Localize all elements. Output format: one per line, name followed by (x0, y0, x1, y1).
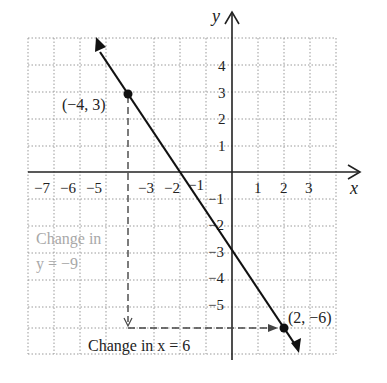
svg-text:−5: −5 (86, 180, 102, 196)
svg-text:−3: −3 (208, 244, 224, 260)
svg-text:−3: −3 (138, 180, 154, 196)
x-tick-labels: −7 −6 −5 −3 −2 −1 1 2 3 (34, 177, 313, 196)
change-in-x-arrow-icon (268, 324, 278, 332)
change-in-x-label: Change in x = 6 (88, 337, 190, 355)
svg-text:2: 2 (280, 180, 288, 196)
point2-label: (2, −6) (288, 309, 332, 327)
svg-text:−4: −4 (208, 270, 224, 286)
point1-label: (−4, 3) (62, 96, 106, 114)
svg-text:1: 1 (218, 138, 226, 154)
svg-text:−5: −5 (208, 297, 224, 313)
grid (28, 38, 336, 354)
svg-text:2: 2 (218, 111, 226, 127)
svg-text:−1: −1 (208, 191, 224, 207)
point-neg4-3 (124, 90, 133, 99)
y-tick-labels: 4 3 2 1 −1 −2 −3 −4 −5 (208, 58, 226, 313)
change-in-y-label-line2: y = −9 (36, 255, 78, 273)
line-series (95, 37, 301, 353)
svg-text:4: 4 (218, 58, 226, 74)
svg-text:−7: −7 (34, 180, 50, 196)
svg-text:3: 3 (305, 180, 313, 196)
svg-text:−1: −1 (188, 177, 204, 193)
svg-text:1: 1 (254, 180, 262, 196)
line-arrow-up-icon (95, 37, 106, 52)
y-axis-label: y (210, 6, 220, 26)
change-in-y-label-line1: Change in (36, 230, 101, 248)
svg-text:−6: −6 (60, 180, 76, 196)
svg-text:−2: −2 (164, 180, 180, 196)
svg-text:3: 3 (218, 85, 226, 101)
change-guides (128, 96, 276, 328)
coordinate-plane: x y −7 −6 −5 −3 −2 −1 1 2 3 4 3 2 1 −1 −… (0, 0, 387, 383)
x-axis-label: x (349, 178, 358, 198)
